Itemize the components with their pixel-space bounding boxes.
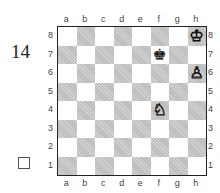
rank-label: 7 xyxy=(48,49,53,59)
square-g1 xyxy=(169,157,188,176)
square-f4: ♘ xyxy=(151,101,170,120)
square-h7 xyxy=(188,46,207,65)
square-e3 xyxy=(132,120,151,139)
rank-label: 2 xyxy=(48,141,53,151)
file-label: f xyxy=(150,178,169,188)
square-e1 xyxy=(132,157,151,176)
square-c2 xyxy=(95,138,114,157)
rank-label: 5 xyxy=(48,86,53,96)
square-a3 xyxy=(58,120,77,139)
rank-label: 4 xyxy=(208,104,213,114)
square-e8 xyxy=(132,27,151,46)
square-f6 xyxy=(151,64,170,83)
file-labels-top: a b c d e f g h xyxy=(57,14,205,24)
square-g3 xyxy=(169,120,188,139)
square-a2 xyxy=(58,138,77,157)
square-e6 xyxy=(132,64,151,83)
black-king-icon: ♚ xyxy=(153,47,167,63)
file-label: a xyxy=(57,14,76,24)
rank-label: 2 xyxy=(208,141,213,151)
square-h3 xyxy=(188,120,207,139)
file-label: b xyxy=(76,178,95,188)
square-e2 xyxy=(132,138,151,157)
rank-labels-left: 8 7 6 5 4 3 2 1 xyxy=(48,26,53,174)
rank-label: 6 xyxy=(208,67,213,77)
rank-label: 3 xyxy=(48,123,53,133)
square-c1 xyxy=(95,157,114,176)
square-b6 xyxy=(77,64,96,83)
square-e4 xyxy=(132,101,151,120)
file-label: e xyxy=(131,178,150,188)
file-label: a xyxy=(57,178,76,188)
file-label: d xyxy=(113,178,132,188)
square-d3 xyxy=(114,120,133,139)
square-c7 xyxy=(95,46,114,65)
file-label: e xyxy=(131,14,150,24)
square-a5 xyxy=(58,83,77,102)
rank-label: 7 xyxy=(208,49,213,59)
square-e7 xyxy=(132,46,151,65)
square-g7 xyxy=(169,46,188,65)
square-h5 xyxy=(188,83,207,102)
square-b5 xyxy=(77,83,96,102)
square-h6: ♙ xyxy=(188,64,207,83)
square-g5 xyxy=(169,83,188,102)
rank-label: 8 xyxy=(208,30,213,40)
square-c3 xyxy=(95,120,114,139)
square-h1 xyxy=(188,157,207,176)
square-a6 xyxy=(58,64,77,83)
square-c4 xyxy=(95,101,114,120)
square-f5 xyxy=(151,83,170,102)
square-d7 xyxy=(114,46,133,65)
square-b3 xyxy=(77,120,96,139)
square-g8 xyxy=(169,27,188,46)
square-d6 xyxy=(114,64,133,83)
file-label: c xyxy=(94,178,113,188)
square-a7 xyxy=(58,46,77,65)
file-label: h xyxy=(187,178,206,188)
file-label: g xyxy=(168,14,187,24)
file-label: d xyxy=(113,14,132,24)
square-d8 xyxy=(114,27,133,46)
rank-label: 3 xyxy=(208,123,213,133)
square-h8: ♔ xyxy=(188,27,207,46)
square-a8 xyxy=(58,27,77,46)
rank-label: 5 xyxy=(208,86,213,96)
square-d2 xyxy=(114,138,133,157)
rank-label: 6 xyxy=(48,67,53,77)
square-g4 xyxy=(169,101,188,120)
square-g6 xyxy=(169,64,188,83)
square-d4 xyxy=(114,101,133,120)
square-b1 xyxy=(77,157,96,176)
rank-label: 8 xyxy=(48,30,53,40)
white-king-icon: ♔ xyxy=(190,28,204,44)
file-label: h xyxy=(187,14,206,24)
square-h4 xyxy=(188,101,207,120)
diagram-number: 14 xyxy=(11,41,30,63)
square-a4 xyxy=(58,101,77,120)
white-knight-icon: ♘ xyxy=(153,102,167,118)
rank-label: 4 xyxy=(48,104,53,114)
square-c8 xyxy=(95,27,114,46)
square-d1 xyxy=(114,157,133,176)
file-label: f xyxy=(150,14,169,24)
file-label: c xyxy=(94,14,113,24)
rank-label: 1 xyxy=(48,160,53,170)
square-f3 xyxy=(151,120,170,139)
square-b7 xyxy=(77,46,96,65)
square-f7: ♚ xyxy=(151,46,170,65)
file-label: b xyxy=(76,14,95,24)
square-g2 xyxy=(169,138,188,157)
rank-label: 1 xyxy=(208,160,213,170)
square-c5 xyxy=(95,83,114,102)
square-c6 xyxy=(95,64,114,83)
chess-board: ♔♚♙♘ xyxy=(57,26,207,176)
file-label: g xyxy=(168,178,187,188)
square-b8 xyxy=(77,27,96,46)
square-d5 xyxy=(114,83,133,102)
white-to-move-box xyxy=(18,157,30,169)
square-h2 xyxy=(188,138,207,157)
square-b4 xyxy=(77,101,96,120)
square-f8 xyxy=(151,27,170,46)
square-f2 xyxy=(151,138,170,157)
